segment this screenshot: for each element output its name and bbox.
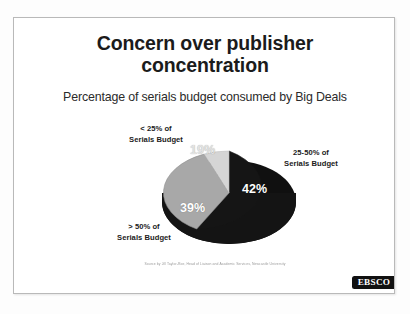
pie-callout-25-50: 25-50% of Serials Budget (259, 147, 363, 169)
slide-title-line-1: Concern over publisher (97, 32, 314, 54)
slide-title-line-2: concentration (36, 54, 374, 76)
pie-callout-over-50-line-2: Serials Budget (92, 232, 196, 243)
ebsco-logo: EBSCO (352, 276, 395, 289)
slide-subtitle: Percentage of serials budget consumed by… (24, 90, 386, 104)
pie-callout-under-25-line-1: < 25% of (110, 123, 202, 134)
screenshot-canvas: Concern over publisher concentration Per… (0, 0, 410, 314)
pie-value-label-25-50: 42% (242, 182, 267, 196)
pie-callout-over-50: > 50% of Serials Budget (92, 221, 196, 243)
pie-callout-over-50-line-1: > 50% of (92, 221, 196, 232)
pie-chart: 19% 42% 39% < 25% of Serials Budget 25-5… (14, 113, 395, 278)
pie-callout-25-50-line-1: 25-50% of (259, 147, 363, 158)
pie-callout-under-25: < 25% of Serials Budget (110, 123, 202, 145)
source-credit: Source by Jill Taylor-Roe, Head of Liais… (100, 262, 330, 266)
slide-title: Concern over publisher concentration (36, 32, 374, 76)
pie-callout-under-25-line-2: Serials Budget (110, 134, 202, 145)
pie-callout-25-50-line-2: Serials Budget (259, 158, 363, 169)
pie-value-label-under-25: 19% (190, 143, 215, 157)
presentation-slide: Concern over publisher concentration Per… (13, 17, 395, 294)
pie-value-label-over-50: 39% (180, 201, 205, 215)
